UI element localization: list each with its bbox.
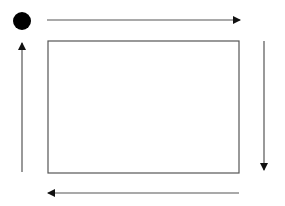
start-dot-icon (13, 12, 31, 30)
cycle-diagram (0, 0, 285, 206)
diagram-canvas (0, 0, 285, 206)
center-rectangle (48, 41, 239, 173)
